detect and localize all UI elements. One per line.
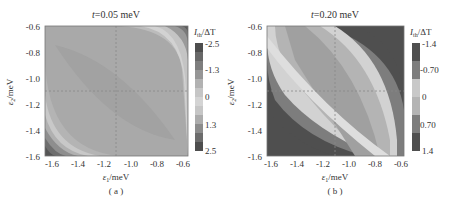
- y-axis-label-a: ε2/meV: [5, 78, 16, 105]
- svg-text:-1.6: -1.6: [45, 159, 60, 169]
- chart-title-b: t=0.20 meV: [311, 9, 360, 20]
- svg-text:-0.8: -0.8: [26, 48, 41, 58]
- y-ticks-a: -0.6 -0.8 -1.0 -1.2 -1.4 -1.6: [26, 22, 41, 162]
- svg-text:-1.2: -1.2: [97, 159, 111, 169]
- svg-text:1.4: 1.4: [422, 146, 434, 156]
- panel-label-b: ( b ): [328, 186, 343, 196]
- svg-text:0: 0: [422, 92, 427, 102]
- svg-text:-2.5: -2.5: [205, 39, 220, 49]
- svg-text:2.5: 2.5: [205, 146, 217, 156]
- svg-text:-0.8: -0.8: [368, 159, 383, 169]
- svg-text:-1.6: -1.6: [248, 152, 263, 162]
- svg-text:0: 0: [205, 92, 210, 102]
- svg-text:1.3: 1.3: [205, 120, 217, 130]
- svg-text:-1.0: -1.0: [248, 74, 263, 84]
- svg-text:-0.6: -0.6: [248, 22, 263, 32]
- svg-text:-1.4: -1.4: [422, 39, 437, 49]
- svg-text:-0.6: -0.6: [176, 159, 191, 169]
- y-axis-label-b: ε2/meV: [226, 78, 237, 105]
- svg-text:-0.8: -0.8: [150, 159, 165, 169]
- svg-text:-1.4: -1.4: [26, 126, 41, 136]
- svg-text:-1.2: -1.2: [26, 100, 40, 110]
- panel-b: t=0.20 meV -0.6 -0.8 -1.0 -1.2 -1.4 -1.6…: [225, 0, 449, 201]
- colorbar-b: [412, 43, 420, 151]
- contour-plot-b: t=0.20 meV -0.6 -0.8 -1.0 -1.2 -1.4 -1.6…: [225, 0, 449, 201]
- svg-text:-0.70: -0.70: [420, 65, 439, 75]
- colorbar-title-b: Ith/ΔT: [409, 27, 432, 38]
- svg-text:-1.6: -1.6: [264, 159, 279, 169]
- x-axis-label-a: ε1/meV: [103, 172, 130, 183]
- x-ticks-b: -1.6 -1.4 -1.2 -1.0 -0.8 -0.6: [264, 159, 409, 169]
- colorbar-ticks-a: -2.5 -1.3 0 1.3 2.5: [205, 39, 220, 156]
- panel-a: t=0.05 meV -0.6 -0.8 -1.0 -1.2 -1.4 -1.6…: [0, 0, 225, 201]
- x-ticks-a: -1.6 -1.4 -1.2 -1.0 -0.8 -0.6: [45, 159, 191, 169]
- colorbar-ticks-b: -1.4 -0.70 0 0.70 1.4: [420, 39, 439, 156]
- svg-text:-0.6: -0.6: [394, 159, 409, 169]
- colorbar-title-a: Ith/ΔT: [193, 27, 216, 38]
- svg-text:-1.2: -1.2: [248, 100, 262, 110]
- colorbar-a: [195, 43, 203, 151]
- svg-text:-1.4: -1.4: [71, 159, 86, 169]
- svg-text:-1.0: -1.0: [26, 74, 41, 84]
- svg-text:-0.8: -0.8: [248, 48, 263, 58]
- svg-text:-1.0: -1.0: [124, 159, 139, 169]
- svg-text:-1.2: -1.2: [316, 159, 330, 169]
- svg-text:-1.6: -1.6: [26, 152, 41, 162]
- svg-text:0.70: 0.70: [420, 120, 436, 130]
- svg-text:-1.4: -1.4: [290, 159, 305, 169]
- panel-label-a: ( a ): [109, 186, 124, 196]
- svg-text:-1.0: -1.0: [342, 159, 357, 169]
- x-axis-label-b: ε1/meV: [322, 172, 349, 183]
- y-ticks-b: -0.6 -0.8 -1.0 -1.2 -1.4 -1.6: [248, 22, 263, 162]
- contour-plot-a: t=0.05 meV -0.6 -0.8 -1.0 -1.2 -1.4 -1.6…: [0, 0, 225, 201]
- svg-text:-1.3: -1.3: [205, 65, 220, 75]
- chart-title-a: t=0.05 meV: [92, 9, 141, 20]
- svg-text:-1.4: -1.4: [248, 126, 263, 136]
- svg-text:-0.6: -0.6: [26, 22, 41, 32]
